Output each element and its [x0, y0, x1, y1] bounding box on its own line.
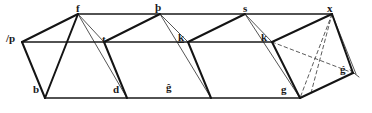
edge-t-thorn [104, 14, 160, 42]
edge-light-f-d [78, 14, 127, 98]
vertex-label-g-circumflex: ĝ [166, 82, 172, 93]
vertex-label-d: d [113, 84, 119, 95]
vertex-label-b: b [33, 84, 39, 95]
edge-k1-ghat [188, 42, 211, 98]
vertex-label-g: g [281, 84, 287, 95]
edge-light-f-t [78, 14, 104, 42]
vertex-label-x: x [327, 3, 333, 14]
diagram-canvas: /p f þ s x t k k b d ĝ g ǵ [0, 0, 372, 113]
edge-light-s-k2 [245, 14, 272, 42]
edge-f-b [45, 14, 78, 98]
vertex-label-f: f [76, 3, 80, 14]
edge-light-s-g [245, 14, 300, 98]
edge-k1-s [188, 14, 245, 42]
hidden-edge-x-inner [311, 14, 332, 93]
vertex-label-t: t [102, 34, 106, 45]
vertex-label-k-first: k [178, 32, 184, 43]
prism-figure [0, 0, 372, 113]
vertex-label-k-second: k [261, 32, 267, 43]
heavy-edges-group [22, 14, 353, 98]
vertex-label-slash-p: /p [6, 33, 15, 44]
edge-k2-x [272, 14, 332, 42]
vertex-label-thorn: þ [155, 2, 161, 13]
vertex-label-s: s [243, 3, 247, 14]
vertex-label-g-acute: ǵ [340, 64, 346, 75]
